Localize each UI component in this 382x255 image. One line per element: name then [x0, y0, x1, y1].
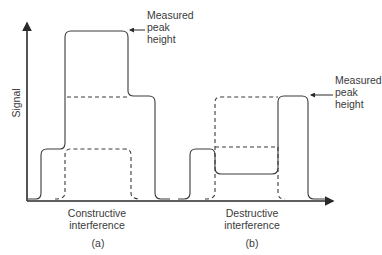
annotation-line: peak	[335, 86, 382, 98]
annotation-line: Measured	[335, 74, 382, 86]
annotation-line: Measured	[147, 9, 194, 21]
panel-title-line: Destructive	[224, 207, 279, 219]
panel-title-line: Constructive	[68, 207, 126, 219]
annotation-line: peak	[147, 21, 194, 33]
panel-b-title: Destructive interference	[224, 207, 279, 231]
panel-a-traces	[28, 31, 170, 199]
panel-a-title: Constructive interference	[68, 207, 126, 231]
panel-title-line: interference	[68, 219, 126, 231]
panel-b-annotation: Measured peak height	[335, 74, 382, 110]
panel-title-line: interference	[224, 219, 279, 231]
panel-a-solid-signal	[28, 31, 170, 199]
panel-b-traces	[178, 96, 325, 199]
panel-a-dashed-small	[55, 149, 140, 199]
axes	[27, 23, 333, 201]
panel-b-label: (b)	[246, 237, 259, 249]
panel-b-dashed-large	[205, 97, 278, 199]
annotation-line: height	[335, 98, 382, 110]
annotation-line: height	[147, 33, 194, 45]
panel-a-annotation: Measured peak height	[147, 9, 194, 45]
panel-a-label: (a)	[92, 237, 105, 249]
panel-b-dashed-small	[215, 147, 285, 199]
y-axis-label: Signal	[10, 88, 22, 117]
